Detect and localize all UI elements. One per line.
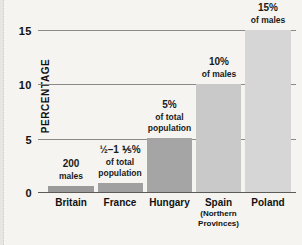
x-label-spain-text: Spain: [205, 197, 232, 208]
scan-edge-artifact: [0, 0, 4, 245]
bar-annotation-poland: 15% of males: [235, 2, 301, 26]
bar-hungary[interactable]: [147, 138, 192, 192]
bars-layer: 200 males ½–1 ⅕% of total population 5% …: [38, 8, 296, 192]
bar-annotation-france-value: ½–1 ⅕%: [86, 144, 154, 157]
bar-spain[interactable]: [196, 84, 241, 192]
bar-chart-figure: PERCENTAGE 15 10 5 0 200 males ½–1 ⅕%: [0, 0, 302, 245]
x-label-spain-sub1: (Northern: [185, 209, 252, 219]
x-label-poland: Poland: [235, 196, 301, 209]
x-label-poland-text: Poland: [251, 197, 284, 208]
bar-annotation-hungary-value: 5%: [135, 99, 204, 112]
bar-annotation-spain: 10% of males: [186, 56, 252, 80]
x-label-hungary-text: Hungary: [149, 197, 190, 208]
bar-annotation-france-note: of total: [86, 157, 154, 168]
x-label-spain-sub2: Provinces): [185, 219, 252, 229]
y-tick-label-10: 10: [19, 79, 32, 91]
bar-annotation-spain-note: of males: [186, 69, 252, 80]
bar-annotation-hungary-note: of total: [135, 112, 204, 123]
y-tick-label-5: 5: [25, 134, 32, 146]
bar-britain[interactable]: [48, 186, 94, 192]
bar-annotation-spain-value: 10%: [186, 56, 252, 69]
x-label-britain-text: Britain: [55, 197, 87, 208]
bar-annotation-france: ½–1 ⅕% of total population: [86, 144, 154, 179]
x-axis-category-labels: Britain France Hungary Spain (Northern P…: [38, 196, 296, 241]
x-label-france-text: France: [104, 197, 137, 208]
bar-annotation-poland-value: 15%: [235, 2, 301, 15]
bar-poland[interactable]: [245, 30, 291, 192]
plot-area: 15 10 5 0 200 males ½–1 ⅕% of total popu…: [38, 8, 296, 192]
bar-annotation-hungary: 5% of total population: [135, 99, 204, 134]
bar-france[interactable]: [98, 183, 143, 192]
bar-annotation-france-note2: population: [86, 168, 154, 179]
bar-annotation-poland-note: of males: [235, 15, 301, 26]
bar-annotation-hungary-note2: population: [135, 123, 204, 134]
y-tick-label-15: 15: [19, 25, 32, 37]
y-tick-label-0: 0: [25, 187, 32, 199]
gridline-0-baseline: 0: [38, 192, 296, 193]
